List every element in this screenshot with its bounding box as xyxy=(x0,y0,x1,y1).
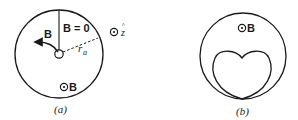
cardioid-inner-boundary xyxy=(213,51,271,99)
out-of-page-dot-icon xyxy=(63,86,65,88)
panel-a: B B = 0 r a z ^ B (a) xyxy=(15,10,126,116)
field-out-label-a: B xyxy=(69,81,77,93)
out-of-page-dot-icon xyxy=(113,31,115,33)
caption-a: (a) xyxy=(54,103,67,116)
radius-subscript: a xyxy=(83,48,87,57)
panel-b: B (b) xyxy=(200,13,286,118)
field-out-of-page-a: B xyxy=(60,81,77,93)
field-out-of-page-b: B xyxy=(238,22,255,34)
curved-field-arrow-icon xyxy=(38,42,58,52)
field-arrow-label: B xyxy=(44,28,52,40)
field-zero-label: B = 0 xyxy=(63,22,90,34)
z-axis-indicator: z ^ xyxy=(110,21,125,38)
figure-canvas: B B = 0 r a z ^ B (a) B (b) xyxy=(0,0,298,120)
caption-b: (b) xyxy=(236,105,249,118)
inner-wire-circle-a xyxy=(55,50,63,58)
out-of-page-dot-icon xyxy=(241,27,243,29)
field-out-label-b: B xyxy=(247,22,255,34)
